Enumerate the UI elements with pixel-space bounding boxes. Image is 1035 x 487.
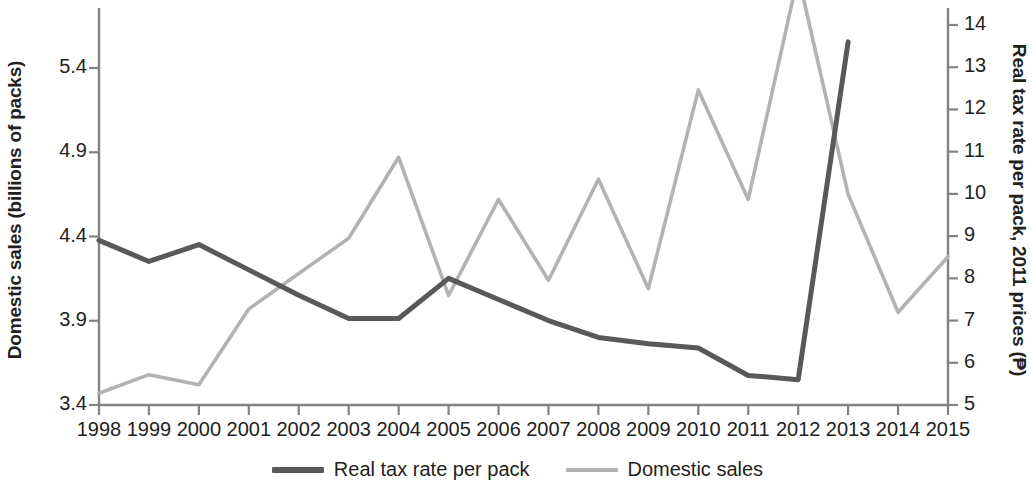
legend-item-domestic-sales[interactable]: Domestic sales [566, 458, 764, 481]
y-axis-left-tick-label: 3.4 [33, 392, 87, 415]
x-axis-tick-label: 2015 [918, 418, 978, 441]
y-axis-right-tick-label: 7 [964, 308, 998, 331]
chart-container: Domestic sales (billions of packs) Real … [0, 0, 1035, 487]
chart-legend: Real tax rate per packDomestic sales [0, 452, 1035, 487]
y-axis-left-tick-label: 4.9 [33, 139, 87, 162]
y-axis-right-tick-label: 12 [964, 96, 998, 119]
legend-swatch-icon [566, 468, 618, 472]
y-axis-left-tick-label: 3.9 [33, 308, 87, 331]
y-axis-right-tick-label: 5 [964, 392, 998, 415]
y-axis-right-tick-label: 14 [964, 12, 998, 35]
chart-plot-area [0, 0, 1035, 452]
y-axis-right-tick-label: 11 [964, 139, 998, 162]
y-axis-right-tick-label: 8 [964, 265, 998, 288]
y-axis-right-tick-label: 13 [964, 54, 998, 77]
series-line-real-tax-rate-per-pack [99, 42, 848, 380]
y-axis-right-tick-label: 10 [964, 181, 998, 204]
legend-item-real-tax-rate-per-pack[interactable]: Real tax rate per pack [272, 458, 530, 481]
y-axis-right-tick-label: 6 [964, 350, 998, 373]
y-axis-right-tick-label: 9 [964, 223, 998, 246]
legend-label: Domestic sales [628, 458, 764, 481]
y-axis-left-tick-label: 5.4 [33, 55, 87, 78]
legend-label: Real tax rate per pack [334, 458, 530, 481]
y-axis-left-tick-label: 4.4 [33, 224, 87, 247]
legend-swatch-icon [272, 467, 324, 473]
series-line-domestic-sales [99, 0, 948, 393]
